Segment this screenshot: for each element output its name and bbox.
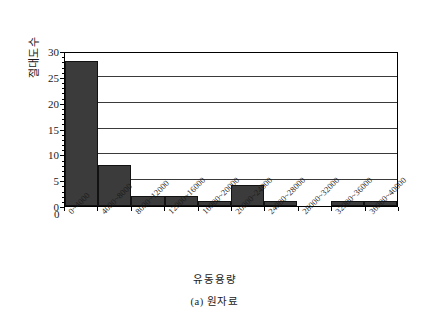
bar-slot <box>65 53 98 206</box>
y-axis: 051015202530 <box>40 52 64 207</box>
y-tick-label-5: 5 <box>54 176 60 187</box>
x-axis-labels: 0~40004000~80008000~1200012000~160001600… <box>64 209 398 269</box>
bar-0~4000 <box>65 61 98 206</box>
figure-caption: (a) 원자료 <box>0 293 429 308</box>
histogram-figure: 절대도수 051015202530 0~40004000~80008000~12… <box>0 0 429 330</box>
y-tick-label-10: 10 <box>48 150 59 161</box>
y-tick-label-25: 25 <box>48 72 59 83</box>
x-tick-mark-10 <box>398 207 399 211</box>
x-axis-title: 유동용량 <box>0 271 429 286</box>
y-tick-label-30: 30 <box>48 47 59 58</box>
y-tick-label-20: 20 <box>48 98 59 109</box>
y-axis-title: 절대도수 <box>27 0 41 135</box>
y-tick-label-15: 15 <box>48 124 59 135</box>
x-axis-origin-label: 0 <box>54 209 60 220</box>
